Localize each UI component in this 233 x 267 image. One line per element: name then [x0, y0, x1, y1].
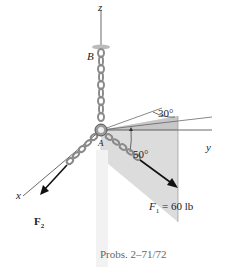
f1-symbol: F: [149, 200, 156, 212]
angle-30-label: 30°: [158, 108, 173, 119]
f2-subscript: 2: [41, 222, 45, 230]
point-b-label: B: [87, 51, 94, 62]
force-f2-label: F2: [34, 216, 44, 230]
figure-caption: Probs. 2–71/72: [100, 248, 167, 260]
f1-subscript: 1: [156, 207, 160, 215]
f1-value: = 60 lb: [162, 200, 193, 212]
chain-vertical: [98, 49, 104, 121]
chain-f2: [66, 133, 99, 165]
f2-symbol: F: [34, 215, 41, 227]
point-a-label: A: [98, 139, 104, 148]
force-f1-label: F1 = 60 lb: [149, 201, 193, 215]
angle-50-label: 50°: [133, 149, 148, 160]
x-axis-label: x: [16, 190, 21, 201]
y-axis-label: y: [206, 142, 211, 153]
z-axis-label: z: [98, 2, 102, 13]
ring-a-hole: [98, 127, 104, 133]
